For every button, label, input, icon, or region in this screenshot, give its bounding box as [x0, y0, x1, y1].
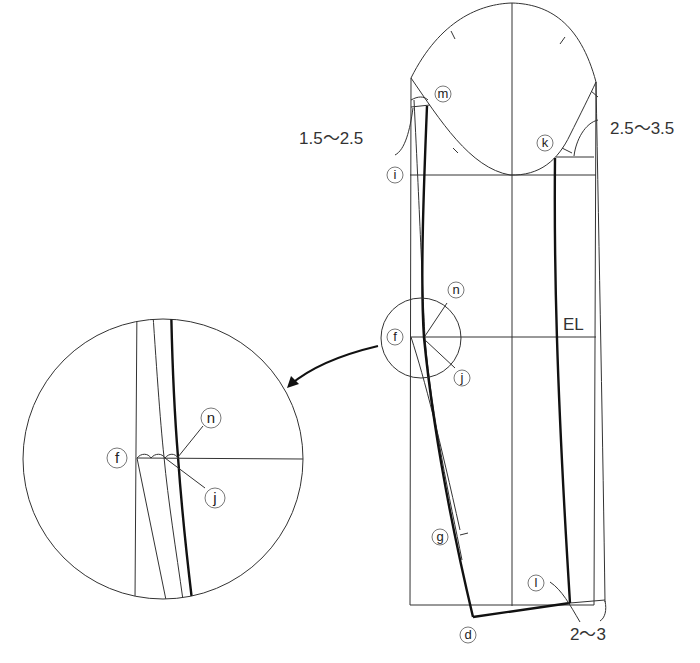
svg-text:j: j	[212, 489, 216, 506]
svg-text:f: f	[393, 329, 397, 344]
hem-extension-line	[570, 600, 605, 603]
point-k: k	[537, 135, 553, 151]
svg-text:j: j	[460, 370, 464, 385]
svg-text:n: n	[452, 282, 459, 297]
j-leader	[425, 340, 455, 368]
point-j: j	[454, 370, 470, 386]
detail-point-f: f	[107, 448, 127, 468]
point-m: m	[435, 86, 451, 102]
detail-j-leader	[165, 458, 205, 488]
l-leader	[550, 582, 580, 622]
hem-offset-leader	[600, 601, 606, 621]
point-g: g	[432, 529, 448, 545]
detail-n-leader	[178, 426, 203, 457]
notch	[560, 37, 565, 44]
notch	[591, 91, 598, 97]
sleeve-draft: m k i n f j g l	[299, 3, 674, 644]
detail-thick-seam	[171, 300, 192, 600]
point-d: d	[460, 627, 476, 643]
detail-frame-line	[135, 300, 137, 600]
detail-point-n: n	[201, 408, 221, 428]
detail-ease-marks	[137, 454, 178, 458]
detail-diagonal	[137, 458, 166, 600]
g-notch	[460, 533, 468, 535]
sleeve-cap-top-curve	[411, 3, 596, 82]
svg-text:i: i	[394, 167, 397, 182]
detail-elbow-line	[137, 458, 303, 459]
front-cap-offset-label: 1.5〜2.5	[299, 129, 363, 148]
back-cap-leader	[574, 120, 598, 156]
detail-point-j: j	[205, 488, 225, 508]
point-l: l	[528, 575, 544, 591]
point-f: f	[387, 329, 403, 345]
elbow-line-label: EL	[563, 315, 584, 334]
notch	[453, 148, 458, 153]
svg-text:m: m	[438, 86, 449, 101]
front-thin-curve	[414, 100, 462, 560]
sleeve-pattern-diagram: m k i n f j g l	[0, 0, 700, 663]
svg-text:k: k	[542, 135, 549, 150]
point-i: i	[387, 167, 403, 183]
back-cap-offset-label: 2.5〜3.5	[610, 119, 674, 138]
detail-arrow	[287, 346, 378, 388]
right-frame-line	[594, 82, 596, 605]
left-frame-line	[410, 78, 411, 605]
front-cap-leader	[395, 108, 413, 155]
point-n: n	[448, 282, 464, 298]
svg-text:n: n	[207, 409, 215, 426]
svg-text:l: l	[535, 575, 538, 590]
notch	[562, 148, 572, 153]
notch	[451, 31, 455, 39]
back-seam-thick	[555, 158, 570, 603]
enlarged-detail-view: f n j	[23, 300, 303, 600]
n-leader	[425, 303, 447, 336]
hem-offset-label: 2〜3	[570, 625, 606, 644]
svg-text:g: g	[436, 529, 443, 544]
svg-text:d: d	[464, 627, 471, 642]
right-offset-line	[596, 82, 605, 602]
